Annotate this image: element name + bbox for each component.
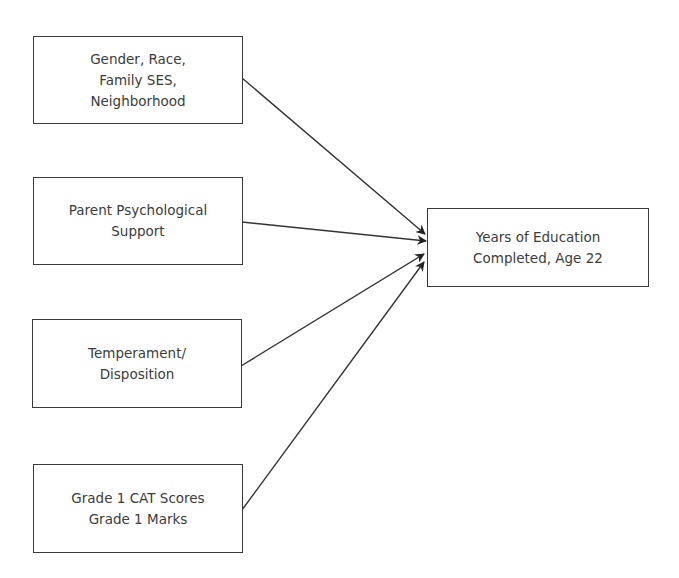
- node-temperament-label: Temperament/ Disposition: [88, 343, 186, 385]
- node-parent-support: Parent Psychological Support: [33, 177, 243, 265]
- node-outcome-label: Years of Education Completed, Age 22: [473, 227, 603, 269]
- node-demographics-label: Gender, Race, Family SES, Neighborhood: [90, 49, 186, 112]
- node-grade1: Grade 1 CAT Scores Grade 1 Marks: [33, 464, 243, 553]
- edge-n3-to-outcome: [241, 254, 424, 366]
- edge-n4-to-outcome: [242, 262, 424, 510]
- node-parent-support-label: Parent Psychological Support: [69, 200, 207, 242]
- edge-n1-to-outcome: [242, 78, 425, 234]
- node-outcome: Years of Education Completed, Age 22: [427, 208, 649, 287]
- node-grade1-label: Grade 1 CAT Scores Grade 1 Marks: [71, 488, 204, 530]
- node-demographics: Gender, Race, Family SES, Neighborhood: [33, 36, 243, 124]
- node-temperament: Temperament/ Disposition: [32, 319, 242, 408]
- edge-n2-to-outcome: [242, 222, 426, 241]
